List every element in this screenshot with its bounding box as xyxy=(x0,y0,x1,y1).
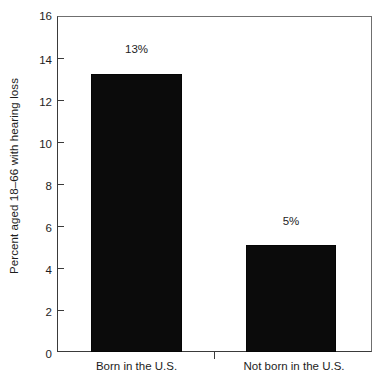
y-tick-mark-14 xyxy=(57,58,64,59)
y-tick-label-0: 0 xyxy=(12,349,52,361)
x-category-label-not-born-in-the-us: Not born in the U.S. xyxy=(220,360,368,374)
y-tick-label-6: 6 xyxy=(12,223,52,235)
bar-born-in-the-us xyxy=(91,74,182,352)
y-tick-mark-10 xyxy=(57,142,64,143)
y-tick-label-8: 8 xyxy=(12,181,52,193)
bar-not-born-in-the-us xyxy=(246,245,336,352)
y-tick-label-4: 4 xyxy=(12,265,52,277)
y-tick-label-2: 2 xyxy=(12,307,52,319)
x-category-label-born-in-the-us: Born in the U.S. xyxy=(66,360,207,374)
y-axis-title: Percent aged 18–66 with hearing loss xyxy=(8,0,26,352)
y-tick-label-12: 12 xyxy=(12,97,52,109)
y-tick-label-16: 16 xyxy=(12,11,52,23)
bar-value-label-2: 5% xyxy=(246,216,336,228)
bar-value-label-1: 13% xyxy=(91,44,182,56)
y-tick-mark-8 xyxy=(57,184,64,185)
x-tick-mark-center xyxy=(214,352,215,359)
y-tick-mark-4 xyxy=(57,268,64,269)
y-tick-mark-6 xyxy=(57,226,64,227)
bar-chart: Percent aged 18–66 with hearing loss 0 2… xyxy=(0,0,392,388)
y-tick-label-14: 14 xyxy=(12,55,52,67)
y-tick-mark-12 xyxy=(57,100,64,101)
y-tick-mark-2 xyxy=(57,310,64,311)
y-tick-label-10: 10 xyxy=(12,139,52,151)
